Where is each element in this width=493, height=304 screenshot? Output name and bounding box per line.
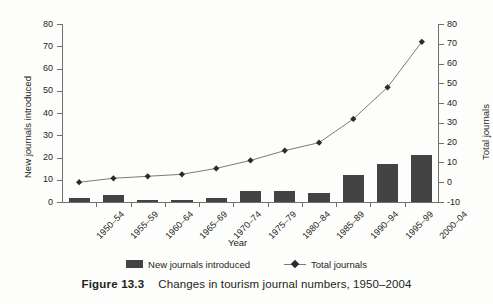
x-axis-tick xyxy=(96,202,97,207)
x-axis-tick xyxy=(405,202,406,207)
y-axis-left-tick-label: 60 xyxy=(27,64,53,73)
line-marker-1980–84 xyxy=(282,147,288,153)
y-axis-left-title: New journals introduced xyxy=(22,76,33,178)
y-axis-right-tick-label: 0 xyxy=(447,178,473,187)
x-axis-title: Year xyxy=(228,237,247,248)
x-axis-label-1985–89: 1985–89 xyxy=(334,209,366,241)
x-axis-tick xyxy=(336,202,337,207)
x-axis-tick xyxy=(199,202,200,207)
y-axis-left-tick-label: 0 xyxy=(27,198,53,207)
x-axis-tick xyxy=(131,202,132,207)
x-axis-label-1995–99: 1995–99 xyxy=(403,209,435,241)
line-marker-1985–89 xyxy=(316,140,322,146)
line-series-layer xyxy=(62,24,439,202)
y-axis-right-tick-label: 40 xyxy=(447,99,473,108)
x-axis-tick xyxy=(370,202,371,207)
x-axis-label-1975–79: 1975–79 xyxy=(266,209,298,241)
y-axis-right-tick-label: 10 xyxy=(447,158,473,167)
x-axis-label-1955–59: 1955–59 xyxy=(129,209,161,241)
line-diamond-marker-icon xyxy=(284,260,306,268)
legend-entry-total-journals: Total journals xyxy=(284,259,367,270)
line-marker-1965–69 xyxy=(179,171,185,177)
y-axis-right-tick xyxy=(438,202,444,203)
figure-caption-text: Changes in tourism journal numbers, 1950… xyxy=(158,278,411,290)
x-axis-label-1965–69: 1965–69 xyxy=(197,209,229,241)
line-marker-1975–79 xyxy=(247,157,253,163)
y-axis-right-tick-label: 20 xyxy=(447,138,473,147)
chart-legend: New journals introduced Total journals xyxy=(0,256,493,272)
x-axis-tick xyxy=(233,202,234,207)
y-axis-right-tick-label: -10 xyxy=(447,198,473,207)
y-axis-right-tick-label: 50 xyxy=(447,79,473,88)
y-axis-left-tick-label: 80 xyxy=(27,20,53,29)
x-axis-tick xyxy=(302,202,303,207)
figure-caption-number: Figure 13.3 xyxy=(81,278,144,290)
x-axis-label-1980–84: 1980–84 xyxy=(300,209,332,241)
line-marker-1970–74 xyxy=(213,165,219,171)
line-marker-1960–64 xyxy=(145,173,151,179)
y-axis-left-tick-label: 70 xyxy=(27,42,53,51)
x-axis-tick xyxy=(268,202,269,207)
legend-label-new-journals: New journals introduced xyxy=(148,259,250,270)
legend-label-total-journals: Total journals xyxy=(311,259,367,270)
line-marker-1950–54 xyxy=(76,179,82,185)
filled-square-icon xyxy=(126,260,143,268)
y-axis-right-tick-label: 70 xyxy=(447,39,473,48)
legend-entry-new-journals: New journals introduced xyxy=(126,259,250,270)
y-axis-right-tick-label: 80 xyxy=(447,20,473,29)
x-axis-tick xyxy=(165,202,166,207)
x-axis-label-1990–94: 1990–94 xyxy=(369,209,401,241)
figure-container: 01020304050607080 -1001020304050607080 1… xyxy=(0,0,493,304)
y-axis-right-title: Total journals xyxy=(480,104,491,160)
x-axis-label-1960–64: 1960–64 xyxy=(163,209,195,241)
y-axis-right-tick-label: 30 xyxy=(447,118,473,127)
y-axis-left-tick xyxy=(57,202,63,203)
x-axis-label-2000–04: 2000–04 xyxy=(437,209,469,241)
y-axis-right-tick-label: 60 xyxy=(447,59,473,68)
chart-plot-area: 01020304050607080 -1001020304050607080 1… xyxy=(0,0,493,250)
x-axis-line xyxy=(62,202,439,203)
line-marker-1955–59 xyxy=(110,175,116,181)
x-axis-label-1950–54: 1950–54 xyxy=(94,209,126,241)
figure-caption: Figure 13.3 Changes in tourism journal n… xyxy=(0,278,493,290)
